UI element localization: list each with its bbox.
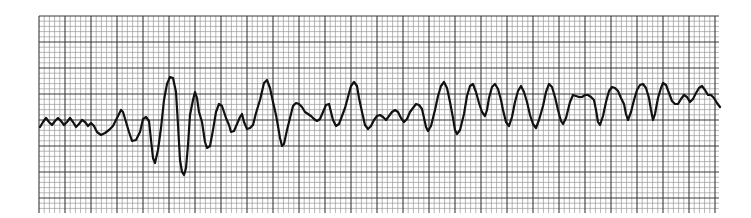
ecg-rhythm-strip: [0, 0, 751, 218]
background: [0, 0, 751, 218]
